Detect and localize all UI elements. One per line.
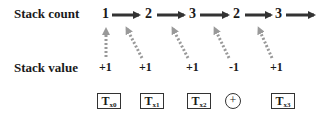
stack-count-label: Stack count <box>14 6 79 22</box>
value-contribution-arrows <box>106 29 272 58</box>
token-box-tx1: Tx1 <box>140 93 164 109</box>
stack-value-4: -1 <box>229 60 239 75</box>
stack-count-2: 2 <box>145 6 152 22</box>
stack-value-2: +1 <box>139 60 152 75</box>
stack-value-3: +1 <box>186 60 199 75</box>
stack-value-5: +1 <box>270 60 283 75</box>
stack-count-5: 3 <box>275 6 282 22</box>
stack-count-1: 1 <box>102 6 109 22</box>
plus-operator-icon: + <box>225 93 241 109</box>
token-box-tx0: Tx0 <box>97 93 121 109</box>
token-box-tx2: Tx2 <box>187 93 211 109</box>
token-box-tx3: Tx3 <box>271 93 295 109</box>
stack-count-3: 3 <box>189 6 196 22</box>
stack-value-1: +1 <box>99 60 112 75</box>
stack-value-label: Stack value <box>14 60 78 76</box>
stack-count-4: 2 <box>233 6 240 22</box>
